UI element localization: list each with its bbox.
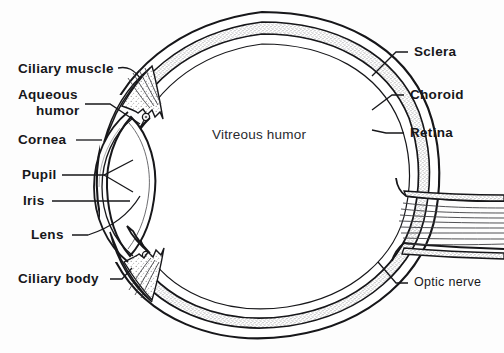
label-ciliary-body: Ciliary body	[18, 271, 99, 286]
label-aqueous: Aqueous	[18, 87, 78, 102]
label-vitreous-humor: Vitreous humor	[212, 127, 306, 142]
label-cornea: Cornea	[18, 132, 66, 147]
anterior-segment-group	[94, 66, 164, 302]
label-iris: Iris	[23, 193, 44, 208]
label-retina: Retina	[410, 125, 453, 140]
canal-of-schlemm-upper-core	[145, 116, 148, 119]
label-ciliary-muscle: Ciliary muscle	[18, 61, 114, 76]
label-pupil: Pupil	[22, 167, 57, 182]
label-sclera: Sclera	[414, 44, 456, 59]
eye-anatomy-figure: Ciliary muscle Aqueous humor Cornea Pupi…	[0, 0, 504, 353]
label-optic-nerve: Optic nerve	[414, 275, 481, 290]
label-humor: humor	[36, 103, 80, 118]
label-lens: Lens	[31, 227, 64, 242]
label-choroid: Choroid	[410, 87, 464, 102]
